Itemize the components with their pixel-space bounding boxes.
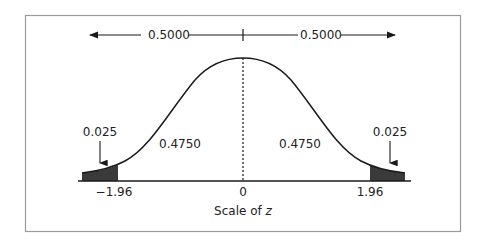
- right-center-area-label: 0.4750: [279, 137, 321, 151]
- left-tail-label: 0.025: [83, 125, 117, 139]
- left-center-area-label: 0.4750: [159, 137, 201, 151]
- axis-title: Scale of z: [214, 204, 272, 218]
- axis-title-prefix: Scale of: [214, 204, 265, 218]
- right-tail-label: 0.025: [373, 125, 407, 139]
- tick-label-1-96: 1.96: [357, 185, 384, 199]
- top-right-label: 0.5000: [300, 28, 342, 42]
- tick-label-neg-1-96: −1.96: [96, 185, 133, 199]
- top-left-label: 0.5000: [148, 28, 190, 42]
- tick-label-0: 0: [239, 185, 247, 199]
- normal-distribution-diagram: 0.5000 0.5000 0.4750 0.4750 0.025 0.025 …: [0, 0, 484, 244]
- axis-title-variable: z: [265, 204, 273, 218]
